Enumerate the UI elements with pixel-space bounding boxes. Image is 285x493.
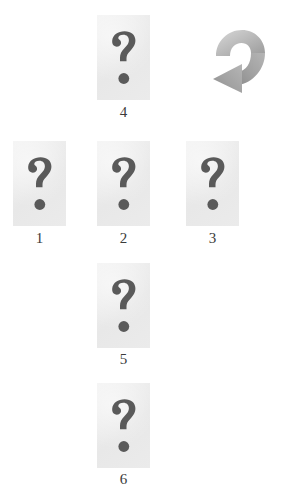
question-mark-icon xyxy=(109,278,139,334)
question-mark-icon xyxy=(198,156,228,212)
tile-2[interactable] xyxy=(97,141,150,226)
tile-4[interactable] xyxy=(97,15,150,100)
tile-6[interactable] xyxy=(97,383,150,468)
tile-5[interactable] xyxy=(97,263,150,348)
question-mark-icon xyxy=(109,398,139,454)
tile-5-label: 5 xyxy=(97,351,150,367)
figure-canvas: 4 xyxy=(0,0,285,493)
tile-3[interactable] xyxy=(186,141,239,226)
question-mark-icon xyxy=(109,30,139,86)
tile-1-label: 1 xyxy=(13,230,66,246)
tile-2-label: 2 xyxy=(97,230,150,246)
question-mark-icon xyxy=(25,156,55,212)
tile-4-label: 4 xyxy=(97,104,150,120)
tile-6-label: 6 xyxy=(97,471,150,487)
tile-3-label: 3 xyxy=(186,230,239,246)
question-mark-icon xyxy=(109,156,139,212)
clockwise-rotation-arrow-icon xyxy=(203,25,275,97)
tile-1[interactable] xyxy=(13,141,66,226)
